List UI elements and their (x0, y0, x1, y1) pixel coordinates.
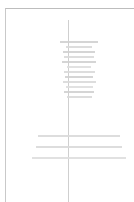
document-page[interactable] (5, 8, 134, 202)
text-line (65, 76, 93, 78)
text-line (62, 61, 96, 63)
centered-paragraph-block[interactable] (6, 135, 134, 168)
text-line (63, 81, 96, 83)
text-line (63, 51, 95, 53)
text-line (38, 135, 120, 137)
text-line (36, 146, 122, 148)
text-line (66, 86, 93, 88)
centered-heading-block[interactable] (6, 41, 134, 101)
text-line (64, 91, 94, 93)
text-line (32, 157, 126, 159)
text-line (64, 71, 95, 73)
text-line (67, 96, 92, 98)
text-line (67, 66, 91, 68)
document-viewport[interactable] (0, 0, 134, 202)
text-line (64, 56, 94, 58)
text-line (66, 46, 92, 48)
text-line (60, 41, 98, 43)
